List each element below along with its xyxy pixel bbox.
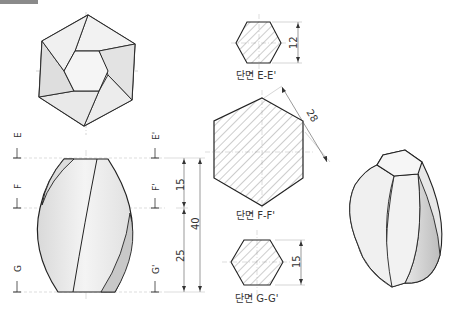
- header-bar: [0, 0, 38, 4]
- section-label-e: 단면 E-E': [236, 70, 276, 81]
- dim-15-g: 15: [291, 255, 302, 268]
- section-label-g: 단면 G-G': [235, 293, 278, 304]
- section-f: 28 단면 F-F': [205, 86, 330, 221]
- marker-label: G: [13, 265, 23, 272]
- marker-label: E: [13, 132, 23, 138]
- iso-view: [350, 150, 442, 287]
- dim-15: 15: [175, 178, 186, 191]
- dim-28: 28: [304, 107, 320, 124]
- marker-e-left: E: [13, 132, 23, 158]
- drawing-canvas: E F G E' F' G': [0, 0, 458, 315]
- dim-25: 25: [175, 249, 186, 262]
- dimensions: 15 25 40: [175, 158, 202, 292]
- marker-e-right: E': [151, 132, 161, 158]
- marker-g-right: G': [151, 265, 161, 292]
- section-label-f: 단면 F-F': [236, 210, 275, 221]
- marker-f-left: F: [13, 184, 23, 208]
- front-view: [14, 150, 205, 300]
- marker-label: G': [151, 265, 161, 274]
- marker-f-right: F': [151, 183, 161, 208]
- section-e: 12 단면 E-E': [231, 14, 302, 81]
- marker-label: F': [151, 183, 161, 191]
- marker-label: E': [151, 132, 161, 140]
- top-view: [36, 12, 138, 135]
- section-markers-left: E F G: [13, 132, 23, 292]
- marker-label: F: [13, 184, 23, 189]
- section-markers-right: E' F' G': [151, 132, 161, 292]
- section-g: 15 단면 G-G': [222, 230, 305, 304]
- dim-40: 40: [190, 217, 201, 230]
- dim-12: 12: [288, 36, 299, 49]
- marker-g-left: G: [13, 265, 23, 292]
